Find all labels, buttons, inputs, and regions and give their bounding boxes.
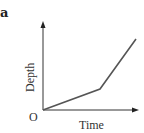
x-axis-arrow-icon xyxy=(132,108,139,113)
depth-line xyxy=(43,39,136,110)
depth-time-graph: O Time Depth xyxy=(0,0,144,133)
y-axis-label: Depth xyxy=(23,63,37,92)
origin-label: O xyxy=(29,110,38,124)
y-axis-arrow-icon xyxy=(41,21,46,28)
x-axis-label: Time xyxy=(79,118,104,132)
